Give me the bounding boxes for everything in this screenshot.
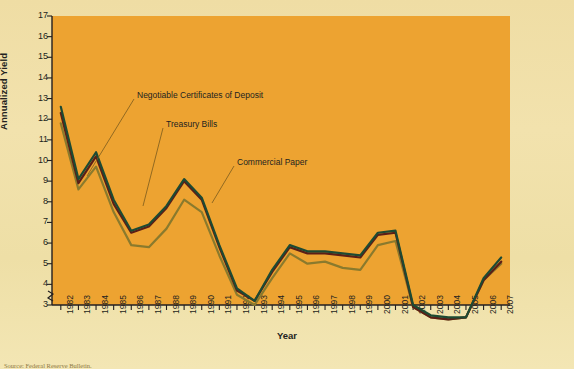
series-annotations: Negotiable Certificates of DepositTreasu… [0, 0, 574, 369]
source-note: Source: Federal Reserve Bulletin. [4, 362, 92, 369]
x-axis-title: Year [0, 330, 574, 341]
series-annotation-label: Treasury Bills [166, 119, 217, 129]
series-annotation-label: Negotiable Certificates of Deposit [137, 90, 263, 100]
yield-line-chart: Annualized Yield 17161514131211109876543… [0, 0, 574, 369]
series-annotation-label: Commercial Paper [237, 157, 307, 167]
